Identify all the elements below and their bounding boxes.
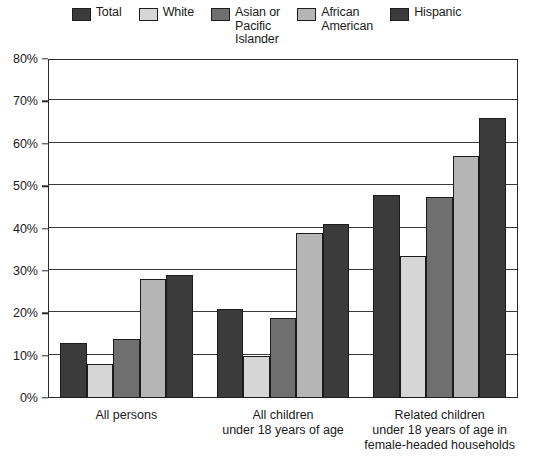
y-axis-tick-label: 40% — [0, 222, 38, 236]
chart-legend: TotalWhiteAsian or Pacific IslanderAfric… — [0, 6, 533, 47]
legend-item: Total — [72, 6, 122, 21]
legend-swatch-icon — [297, 8, 316, 21]
y-axis-tick-label: 30% — [0, 264, 38, 278]
gridline — [49, 354, 517, 355]
gridline — [49, 311, 517, 312]
gridline — [49, 142, 517, 143]
y-axis-tick-label: 0% — [0, 391, 38, 405]
legend-swatch-icon — [390, 8, 409, 21]
y-axis-tick-label: 50% — [0, 179, 38, 193]
legend-label: White — [163, 6, 194, 20]
legend-swatch-icon — [211, 8, 230, 21]
legend-item: White — [139, 6, 194, 21]
y-axis-tick-label: 70% — [0, 94, 38, 108]
y-axis-tick-label: 80% — [0, 52, 38, 66]
legend-swatch-icon — [139, 8, 158, 21]
x-axis-group-label: Related children under 18 years of age i… — [345, 408, 533, 453]
gridline — [49, 99, 517, 100]
legend-label: Total — [96, 6, 122, 20]
legend-item: African American — [297, 6, 373, 33]
y-axis-tick-label: 10% — [0, 349, 38, 363]
y-axis-tick-label: 20% — [0, 306, 38, 320]
legend-item: Asian or Pacific Islander — [211, 6, 280, 47]
legend-label: African American — [321, 6, 373, 33]
bar-chart: TotalWhiteAsian or Pacific IslanderAfric… — [0, 0, 533, 458]
legend-label: Hispanic — [414, 6, 461, 20]
gridline — [49, 227, 517, 228]
plot-area — [48, 59, 518, 398]
legend-item: Hispanic — [390, 6, 461, 21]
legend-swatch-icon — [72, 8, 91, 21]
legend-label: Asian or Pacific Islander — [235, 6, 280, 47]
y-axis-tick-label: 60% — [0, 137, 38, 151]
gridline — [49, 269, 517, 270]
gridline — [49, 184, 517, 185]
